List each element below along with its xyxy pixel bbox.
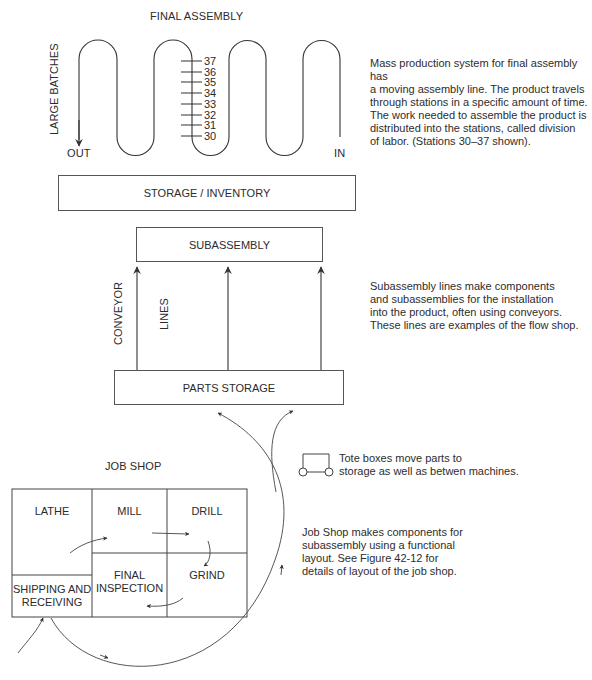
storage-inventory-label: STORAGE / INVENTORY [144,187,271,199]
job-shop-title: JOB SHOP [105,460,161,472]
in-label: IN [334,147,345,159]
job-shop-description: Job Shop makes components for subassembl… [302,526,463,578]
storage-inventory-box: STORAGE / INVENTORY [58,175,356,211]
station-30: 30 [204,131,216,142]
subassembly-description: Subassembly lines make components and su… [370,280,579,332]
out-label: OUT [67,147,91,159]
cell-lathe: LATHE [12,489,92,533]
incoming-arrow [18,618,43,653]
cell-drill: DRILL [167,489,247,533]
parts-storage-label: PARTS STORAGE [183,382,275,394]
parts-storage-box: PARTS STORAGE [114,370,344,405]
final-assembly-description: Mass production system for final assembl… [370,57,592,148]
subassembly-label: SUBASSEMBLY [189,239,270,251]
conveyor-label: CONVEYOR [112,282,124,345]
cell-shipping-receiving: SHIPPING AND RECEIVING [12,578,92,614]
lines-label: LINES [158,298,170,330]
tote-box-description: Tote boxes move parts to storage as well… [339,452,519,478]
cell-final-inspection: FINAL INSPECTION [92,565,167,599]
large-batches-label: LARGE BATCHES [48,44,60,136]
flow-curve-tote-to-parts [272,411,293,492]
arc-mid-arrow [100,655,108,658]
cell-mill: MILL [92,489,167,533]
cell-grind: GRIND [167,560,247,590]
tote-box-icon [299,454,333,476]
subassembly-box: SUBASSEMBLY [136,227,323,262]
arc-mid-arrow-2 [281,565,282,575]
